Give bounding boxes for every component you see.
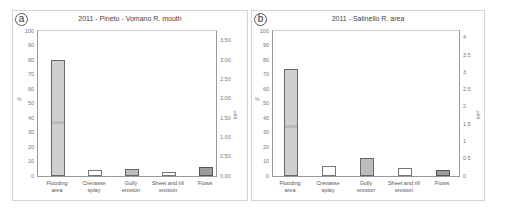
y-right-tick-label: 1.50 [220, 115, 231, 121]
bar-flows [199, 167, 213, 176]
y-tick-label: 30 [255, 129, 269, 135]
y-tick-label: 90 [255, 42, 269, 48]
x-tick-label: Crevassesplay [308, 180, 348, 194]
bar-flooding-area [51, 60, 65, 176]
y-right-tick-label: 2.00 [220, 95, 231, 101]
y-right-tick-label: 3.5 [463, 52, 471, 58]
y-right-tick-label: 0 [463, 173, 466, 179]
y-right-tick-label: 4 [463, 34, 466, 40]
bar-crevasse-splay [88, 170, 102, 176]
y-right-tick-label: 3.00 [220, 57, 231, 63]
y-tick-label: 60 [255, 86, 269, 92]
y-tick-label: 100 [255, 28, 269, 34]
bar-sheet-and-rill-erosion [162, 172, 176, 176]
y-right-tick-label: 1.5 [463, 121, 471, 127]
x-tick-label: Gullyerosion [111, 180, 151, 194]
y-tick-label: 20 [255, 144, 269, 150]
x-tick-label: Floodingarea [270, 180, 310, 194]
y-right-tick-label: 2 [463, 103, 466, 109]
y-right-tick-label: 2.5 [463, 86, 471, 92]
y-tick-label: 10 [255, 158, 269, 164]
y-right-tick-label: 0.50 [220, 153, 231, 159]
y-right-tick-label: 3 [463, 69, 466, 75]
y-tick-label: 40 [20, 115, 34, 121]
x-tick-label: Flows [422, 180, 462, 187]
x-tick-label: Sheet and rillerosion [148, 180, 188, 194]
x-tick-label: Flows [185, 180, 225, 187]
y-right-tick-label: 1 [463, 138, 466, 144]
y-tick-label: 20 [20, 144, 34, 150]
y-tick-label: 70 [20, 71, 34, 77]
y-tick-label: 50 [255, 100, 269, 106]
y-tick-label: 0 [255, 173, 269, 179]
x-tick-label: Sheet and rillerosion [384, 180, 424, 194]
y-tick-label: 30 [20, 129, 34, 135]
y-tick-label: 90 [20, 42, 34, 48]
plot-area-b [272, 30, 460, 177]
bar-crevasse-splay [322, 166, 336, 176]
y-right-tick-label: 1.00 [220, 134, 231, 140]
y-tick-label: 50 [20, 100, 34, 106]
bar-sheet-and-rill-erosion [398, 168, 412, 176]
y-right-tick-label: 0.00 [220, 173, 231, 179]
y-right-tick-label: 0.5 [463, 155, 471, 161]
y-tick-label: 100 [20, 28, 34, 34]
bar-flows [436, 170, 450, 177]
bar-texture-band [285, 125, 297, 128]
y-tick-label: 80 [20, 57, 34, 63]
chart-panel-b: b 2011 - Salinello R. area % km² 0102030… [251, 10, 485, 201]
bar-texture-band [52, 121, 64, 124]
y-axis-label-right: km² [232, 111, 238, 119]
y-tick-label: 80 [255, 57, 269, 63]
chart-title-a: 2011 - Pineto - Vomano R. mouth [13, 15, 247, 22]
y-tick-label: 60 [20, 86, 34, 92]
y-tick-label: 70 [255, 71, 269, 77]
bar-gully-erosion [360, 158, 374, 176]
bar-gully-erosion [125, 169, 139, 176]
y-tick-label: 0 [20, 173, 34, 179]
chart-panel-a: a 2011 - Pineto - Vomano R. mouth % km² … [12, 10, 248, 201]
x-tick-label: Gullyerosion [346, 180, 386, 194]
y-right-tick-label: 3.50 [220, 37, 231, 43]
y-tick-label: 40 [255, 115, 269, 121]
plot-area-a [37, 30, 217, 177]
y-right-tick-label: 2.50 [220, 76, 231, 82]
y-axis-label-right: km² [475, 111, 481, 119]
x-tick-label: Floodingarea [37, 180, 77, 194]
bar-flooding-area [284, 69, 298, 176]
chart-title-b: 2011 - Salinello R. area [252, 15, 484, 22]
x-tick-label: Crevassesplay [74, 180, 114, 194]
y-tick-label: 10 [20, 158, 34, 164]
